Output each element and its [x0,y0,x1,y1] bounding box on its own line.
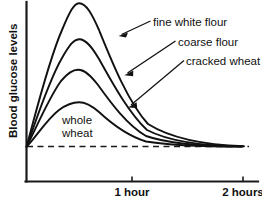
curve-cracked-wheat [27,70,242,147]
series-label-cracked-wheat: cracked wheat [186,55,261,67]
callout-line-cracked-wheat [131,61,184,106]
series-label-whole-wheat-line2: wheat [61,127,93,139]
y-axis-label: Blood glucose levels [7,24,19,138]
chart-canvas: Blood glucose levels 1 hour 2 hours fine… [0,0,262,203]
series-label-whole-wheat-line1: whole [61,114,92,126]
x-tick-label-1-hour: 1 hour [114,186,150,198]
series-label-fine-white-flour: fine white flour [153,16,227,28]
series-label-coarse-flour: coarse flour [178,36,238,48]
callout-line-coarse-flour [128,41,176,73]
curve-whole-wheat [27,102,241,146]
callout-line-fine-white-flour [122,21,151,35]
x-tick-label-2-hours: 2 hours [222,186,262,198]
blood-glucose-chart: Blood glucose levels 1 hour 2 hours fine… [0,0,262,203]
